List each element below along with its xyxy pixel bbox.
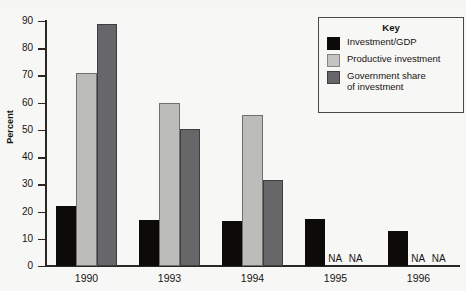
x-axis-tick-label: 1995 — [296, 272, 376, 284]
y-axis-tick — [38, 75, 45, 76]
y-axis-tick-label: 10 — [3, 233, 33, 244]
y-axis-tick-label: 70 — [3, 69, 33, 80]
y-axis-tick-label: 30 — [3, 178, 33, 189]
legend-item-label: Government shareof investment — [347, 70, 426, 92]
legend-item-label: Investment/GDP — [347, 36, 417, 47]
legend: Key Investment/GDPProductive investmentG… — [318, 17, 464, 113]
y-axis-tick — [38, 130, 45, 131]
scan-artifact — [0, 0, 466, 7]
y-axis-tick-label: 0 — [3, 260, 33, 271]
legend-title: Key — [319, 22, 463, 33]
y-axis-tick-label: 50 — [3, 124, 33, 135]
y-axis-tick-label: 20 — [3, 206, 33, 217]
y-axis-tick-label: 80 — [3, 42, 33, 53]
legend-item: Investment/GDP — [327, 36, 463, 50]
bar-1994-series1 — [242, 115, 263, 266]
legend-items: Investment/GDPProductive investmentGover… — [319, 36, 463, 92]
y-axis-tick — [38, 184, 45, 185]
legend-item: Government shareof investment — [327, 70, 463, 92]
x-axis-tick-label: 1993 — [130, 272, 210, 284]
bar-1993-series0 — [139, 220, 160, 266]
na-label: NA — [426, 253, 452, 264]
bar-1990-series1 — [76, 73, 97, 266]
bar-1994-series0 — [222, 221, 243, 266]
bar-chart: Percent 9080706050403020100 NANANANA 199… — [0, 0, 466, 291]
legend-swatch-icon — [327, 71, 340, 84]
bar-1990-series0 — [56, 206, 77, 266]
y-axis-tick — [38, 157, 45, 158]
y-axis-tick — [38, 103, 45, 104]
x-axis-tick-label: 1994 — [213, 272, 293, 284]
na-label: NA — [343, 253, 369, 264]
bar-1993-series2 — [180, 129, 201, 266]
legend-swatch-icon — [327, 54, 340, 67]
y-axis-tick — [38, 239, 45, 240]
y-axis-tick — [38, 212, 45, 213]
y-axis-tick — [38, 21, 45, 22]
legend-item-label: Productive investment — [347, 53, 440, 64]
y-axis-tick-label: 40 — [3, 151, 33, 162]
x-axis-tick-label: 1990 — [47, 272, 127, 284]
x-axis-tick-label: 1996 — [379, 272, 459, 284]
y-axis-tick — [38, 48, 45, 49]
bar-1993-series1 — [159, 103, 180, 266]
legend-item: Productive investment — [327, 53, 463, 67]
bar-1990-series2 — [97, 24, 118, 266]
bar-1994-series2 — [263, 180, 284, 266]
y-axis-tick-label: 90 — [3, 15, 33, 26]
legend-swatch-icon — [327, 37, 340, 50]
y-axis-tick-label: 60 — [3, 97, 33, 108]
y-axis-tick — [38, 266, 45, 267]
